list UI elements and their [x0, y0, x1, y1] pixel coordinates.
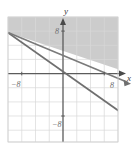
tick-label-x-negative-8: −8 [11, 81, 20, 89]
graph-figure: y x 8 −8 −8 8 [0, 0, 137, 155]
tick-label-y-positive-8: 8 [55, 28, 59, 36]
y-axis-label: y [64, 7, 68, 16]
tick-label-y-negative-8: −8 [52, 121, 61, 129]
x-axis-label: x [127, 74, 131, 83]
tick-label-x-positive-8: 8 [110, 82, 114, 90]
coordinate-plane [0, 0, 137, 155]
